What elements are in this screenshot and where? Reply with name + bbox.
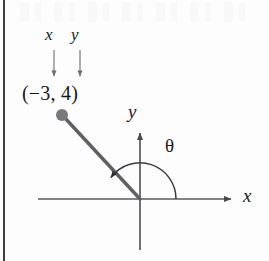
x-axis-label: x	[243, 186, 251, 205]
theta-angle-label: θ	[165, 136, 174, 155]
y-axis-label: y	[128, 102, 136, 121]
point-marker	[56, 109, 68, 121]
figure-canvas	[0, 0, 269, 261]
point-coordinate-label: (−3, 4)	[22, 83, 78, 103]
coordinate-plane-figure: x y (−3, 4) y x θ	[0, 0, 269, 261]
terminal-ray	[64, 117, 140, 199]
annotation-label-x: x	[45, 26, 53, 43]
angle-arc	[111, 163, 176, 199]
annotation-label-y: y	[71, 26, 79, 43]
